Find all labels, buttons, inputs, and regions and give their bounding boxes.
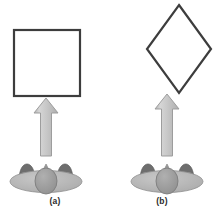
viewing-direction-arrow bbox=[153, 92, 181, 158]
arrow-shape bbox=[155, 94, 179, 156]
diamond-stimulus bbox=[122, 1, 214, 99]
observer-top-view bbox=[129, 157, 205, 197]
arrow-shape bbox=[34, 98, 58, 156]
observer-head bbox=[156, 168, 178, 194]
observer-top-view bbox=[8, 157, 84, 197]
diamond-outline bbox=[147, 5, 211, 93]
panel-caption-b: (b) bbox=[107, 196, 217, 206]
square-stimulus bbox=[12, 28, 82, 98]
viewing-direction-arrow bbox=[32, 96, 60, 158]
panel-a: (a) bbox=[0, 0, 110, 218]
panel-caption-a: (a) bbox=[0, 196, 110, 206]
observer-head bbox=[35, 168, 57, 194]
figure-root: (a) bbox=[0, 0, 221, 218]
panel-b: (b) bbox=[111, 0, 221, 218]
square-outline bbox=[14, 30, 80, 96]
